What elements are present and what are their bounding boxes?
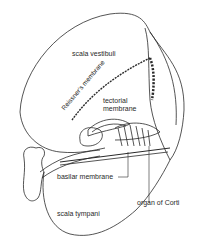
label-organ-of-corti: organ of Corti — [137, 199, 179, 207]
spiral-ligament — [145, 28, 170, 160]
cochlea-diagram: scala vestibuli Reissner's membrane tect… — [0, 0, 199, 249]
label-tectorial-membrane-line1: tectorial — [103, 97, 128, 105]
organ-of-corti-structure — [118, 125, 150, 146]
modiolus — [23, 147, 44, 201]
basilar-leader — [118, 152, 128, 177]
basilar-membrane — [60, 148, 170, 162]
label-scala-vestibuli: scala vestibuli — [72, 50, 116, 58]
label-tectorial-membrane-line2: membrane — [103, 105, 136, 113]
scala-tympani-outline — [43, 160, 170, 235]
label-scala-tympani: scala tympani — [57, 210, 100, 218]
label-basilar-membrane: basilar membrane — [57, 173, 113, 181]
